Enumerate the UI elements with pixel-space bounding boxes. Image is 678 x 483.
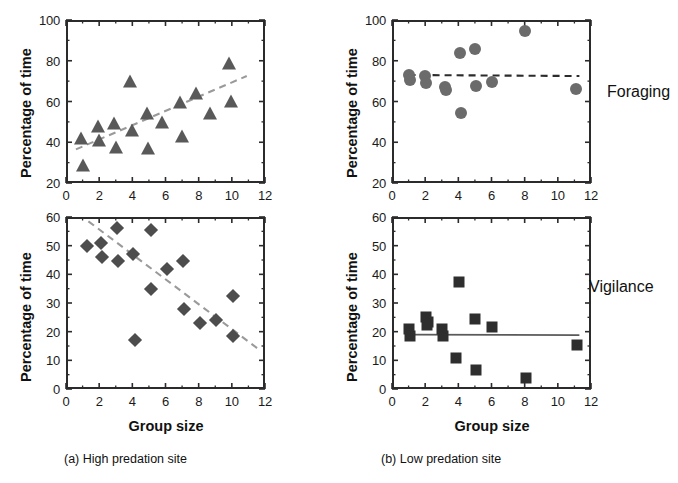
row-label-foraging: Foraging [607, 83, 670, 101]
data-point-square [422, 316, 433, 327]
y-tick-label: 20 [354, 176, 386, 191]
x-tick-label: 8 [521, 394, 528, 409]
data-point-square [521, 372, 532, 383]
caption-a: (a) High predation site [64, 452, 187, 466]
y-tick-label: 60 [28, 210, 60, 225]
data-point-square [487, 322, 498, 333]
data-point-square [469, 313, 480, 324]
x-tick-label: 4 [129, 394, 136, 409]
y-tick-label: 40 [354, 135, 386, 150]
y-tick-label: 40 [28, 135, 60, 150]
data-point-circle [455, 107, 467, 119]
data-point-triangle [141, 142, 155, 155]
data-point-circle [519, 25, 531, 37]
y-tick-label: 80 [354, 53, 386, 68]
x-axis-title-b: Group size [455, 418, 530, 434]
y-tick-label: 20 [354, 324, 386, 339]
data-point-square [437, 330, 448, 341]
y-tick-label: 20 [28, 176, 60, 191]
data-point-square [450, 353, 461, 364]
data-point-triangle [222, 56, 236, 69]
panel-a-foraging: Percentage of time 20406080100024681012 [0, 0, 330, 200]
y-tick-label: 50 [28, 238, 60, 253]
data-point-triangle [92, 134, 106, 147]
x-tick-label: 10 [225, 394, 239, 409]
y-tick-label: 60 [28, 94, 60, 109]
data-point-triangle [125, 123, 139, 136]
caption-b: (b) Low predation site [381, 452, 501, 466]
y-tick-label: 60 [354, 94, 386, 109]
data-point-circle [454, 47, 466, 59]
data-point-triangle [189, 87, 203, 100]
data-point-square [571, 339, 582, 350]
x-tick-label: 4 [455, 394, 462, 409]
data-point-triangle [173, 96, 187, 109]
y-tick-label: 40 [28, 267, 60, 282]
data-point-triangle [109, 141, 123, 154]
x-tick-label: 12 [258, 394, 272, 409]
data-point-triangle [175, 130, 189, 143]
y-tick-label: 100 [28, 13, 60, 28]
figure-root: Percentage of time 20406080100024681012 … [0, 0, 678, 483]
y-tick-label: 50 [354, 238, 386, 253]
data-point-square [454, 276, 465, 287]
y-tick-label: 10 [28, 353, 60, 368]
x-axis-title-a: Group size [129, 418, 204, 434]
data-point-triangle [155, 115, 169, 128]
y-tick-label: 60 [354, 210, 386, 225]
plot-frame-b-vigilance [392, 217, 591, 389]
x-tick-label: 6 [162, 394, 169, 409]
x-tick-label: 6 [488, 394, 495, 409]
plot-frame-b-foraging [392, 20, 591, 183]
data-point-circle [570, 83, 582, 95]
panel-a-vigilance: Percentage of time Group size 0102030405… [0, 200, 330, 415]
data-point-circle [420, 77, 432, 89]
x-tick-label: 10 [551, 394, 565, 409]
x-tick-label: 12 [584, 394, 598, 409]
data-point-triangle [123, 75, 137, 88]
data-point-square [405, 330, 416, 341]
data-point-triangle [140, 106, 154, 119]
panel-b-foraging: Percentage of time Foraging 204060801000… [340, 0, 678, 200]
y-tick-label: 0 [354, 382, 386, 397]
x-tick-label: 2 [422, 394, 429, 409]
x-tick-label: 0 [62, 394, 69, 409]
data-point-triangle [74, 132, 88, 145]
y-tick-label: 20 [28, 324, 60, 339]
x-tick-label: 0 [388, 394, 395, 409]
y-tick-label: 0 [28, 382, 60, 397]
y-tick-label: 100 [354, 13, 386, 28]
data-point-triangle [203, 106, 217, 119]
data-point-circle [469, 43, 481, 55]
data-point-triangle [107, 116, 121, 129]
data-point-circle [486, 76, 498, 88]
y-tick-label: 80 [28, 53, 60, 68]
y-tick-label: 30 [354, 296, 386, 311]
data-point-triangle [224, 95, 238, 108]
data-point-circle [404, 74, 416, 86]
x-tick-label: 2 [96, 394, 103, 409]
row-label-vigilance: Vigilance [589, 278, 654, 296]
y-tick-label: 10 [354, 353, 386, 368]
x-tick-label: 8 [195, 394, 202, 409]
data-point-square [470, 365, 481, 376]
data-point-triangle [91, 119, 105, 132]
data-point-circle [440, 84, 452, 96]
y-tick-label: 30 [28, 296, 60, 311]
y-tick-label: 40 [354, 267, 386, 282]
data-point-triangle [76, 158, 90, 171]
data-point-circle [470, 80, 482, 92]
panel-b-vigilance: Percentage of time Group size Vigilance … [340, 200, 678, 415]
